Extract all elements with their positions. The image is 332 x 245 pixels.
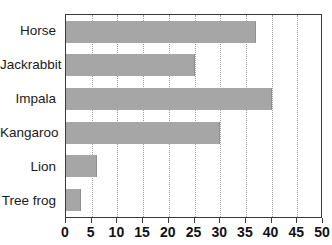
category-label: Kangaroo bbox=[0, 122, 60, 144]
plot-area bbox=[65, 14, 322, 218]
x-tick-mark bbox=[91, 218, 92, 223]
x-tick-mark bbox=[116, 218, 117, 223]
x-tick-label: 50 bbox=[314, 224, 330, 240]
bar-tree-frog bbox=[66, 189, 81, 211]
bar-row bbox=[66, 54, 321, 76]
x-tick-mark bbox=[142, 218, 143, 223]
bar-horse bbox=[66, 21, 256, 43]
x-tick-label: 10 bbox=[109, 224, 125, 240]
bar-row bbox=[66, 189, 321, 211]
category-label: Horse bbox=[0, 20, 60, 42]
x-tick-mark bbox=[65, 218, 66, 223]
x-tick-mark bbox=[245, 218, 246, 223]
bar-kangaroo bbox=[66, 122, 220, 144]
y-axis-category-labels: Horse Jackrabbit Impala Kangaroo Lion Tr… bbox=[0, 14, 60, 218]
x-tick-mark bbox=[219, 218, 220, 223]
bar-row bbox=[66, 155, 321, 177]
category-label: Jackrabbit bbox=[0, 54, 60, 76]
x-tick-mark bbox=[168, 218, 169, 223]
x-tick-label: 35 bbox=[237, 224, 253, 240]
category-label: Tree frog bbox=[0, 190, 60, 212]
bar-rows bbox=[66, 15, 321, 217]
bar-jackrabbit bbox=[66, 54, 195, 76]
x-tick-mark bbox=[194, 218, 195, 223]
x-tick-mark bbox=[271, 218, 272, 223]
bar-row bbox=[66, 88, 321, 110]
bar-chart: Horse Jackrabbit Impala Kangaroo Lion Tr… bbox=[0, 0, 332, 245]
bar-lion bbox=[66, 155, 97, 177]
x-tick-label: 20 bbox=[160, 224, 176, 240]
x-tick-mark bbox=[322, 218, 323, 223]
bar-row bbox=[66, 122, 321, 144]
x-tick-label: 40 bbox=[263, 224, 279, 240]
x-tick-mark bbox=[296, 218, 297, 223]
category-label: Lion bbox=[0, 156, 60, 178]
x-tick-label: 15 bbox=[134, 224, 150, 240]
x-tick-label: 5 bbox=[87, 224, 95, 240]
category-label: Impala bbox=[0, 88, 60, 110]
x-tick-label: 30 bbox=[211, 224, 227, 240]
x-tick-label: 25 bbox=[186, 224, 202, 240]
x-tick-label: 45 bbox=[289, 224, 305, 240]
x-tick-label: 0 bbox=[61, 224, 69, 240]
bar-row bbox=[66, 21, 321, 43]
bar-impala bbox=[66, 88, 272, 110]
